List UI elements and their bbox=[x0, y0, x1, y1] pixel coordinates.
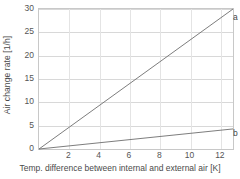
x-axis-tick-label: 12 bbox=[215, 150, 224, 160]
series-label-b: b bbox=[233, 128, 238, 138]
chart-container: Air change rate [1/h] 051015202530 a b 2… bbox=[0, 0, 240, 179]
y-axis-title-text: Air change rate [1/h] bbox=[2, 36, 12, 115]
x-axis-tick-label: 2 bbox=[66, 150, 71, 160]
x-axis-tick-labels: 24681012 bbox=[38, 150, 232, 163]
y-axis-tick-label: 30 bbox=[25, 3, 34, 13]
y-axis-tick-label: 10 bbox=[25, 96, 34, 106]
y-axis-tick-label: 15 bbox=[25, 73, 34, 83]
series-line-a bbox=[39, 9, 233, 149]
x-axis-tick-label: 4 bbox=[96, 150, 101, 160]
y-axis-title: Air change rate [1/h] bbox=[0, 0, 14, 150]
plot-area bbox=[38, 8, 234, 150]
series-label-a: a bbox=[233, 12, 238, 22]
y-axis-tick-label: 25 bbox=[25, 26, 34, 36]
y-axis-tick-labels: 051015202530 bbox=[14, 0, 36, 156]
y-axis-tick-label: 5 bbox=[29, 120, 34, 130]
x-axis-title: Temp. difference between internal and ex… bbox=[0, 163, 240, 173]
y-axis-tick-label: 20 bbox=[25, 50, 34, 60]
x-axis-tick-label: 10 bbox=[185, 150, 194, 160]
series-lines bbox=[39, 9, 233, 149]
series-line-b bbox=[39, 129, 233, 149]
y-axis-tick-label: 0 bbox=[29, 143, 34, 153]
x-axis-tick-label: 8 bbox=[157, 150, 162, 160]
x-axis-tick-label: 6 bbox=[127, 150, 132, 160]
